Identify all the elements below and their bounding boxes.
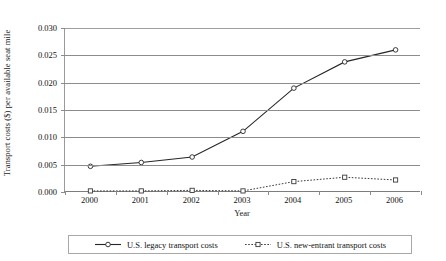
x-tick-mark xyxy=(421,191,422,195)
chart-figure: Transport costs ($) per available seat m… xyxy=(0,0,446,261)
legend-marker-square-icon xyxy=(244,240,272,249)
legend-entry-2[interactable]: U.S. new-entrant transport costs xyxy=(244,240,386,250)
x-tick-label: 2006 xyxy=(386,195,403,205)
x-tick-label: 2005 xyxy=(335,195,352,205)
data-point-marker xyxy=(292,86,297,91)
y-tick-mark xyxy=(61,28,65,29)
data-point-marker xyxy=(190,155,195,160)
gridline xyxy=(65,137,420,138)
plot-area xyxy=(64,28,420,192)
gridline xyxy=(65,165,420,166)
gridline xyxy=(65,28,420,29)
data-point-marker xyxy=(393,48,398,53)
data-point-marker xyxy=(241,189,245,193)
data-point-marker xyxy=(343,175,347,179)
y-tick-mark xyxy=(61,137,65,138)
y-tick-label: 0.005 xyxy=(38,160,57,170)
y-tick-label: 0.010 xyxy=(38,132,57,142)
gridline xyxy=(65,110,420,111)
x-tick-label: 2003 xyxy=(234,195,251,205)
gridline xyxy=(65,83,420,84)
legend-entry-1[interactable]: U.S. legacy transport costs xyxy=(94,240,218,250)
y-tick-label: 0.020 xyxy=(38,78,57,88)
legend-label: U.S. legacy transport costs xyxy=(127,240,218,250)
x-tick-label: 2001 xyxy=(132,195,149,205)
x-tick-label: 2000 xyxy=(81,195,98,205)
data-point-marker xyxy=(292,180,296,184)
data-point-marker xyxy=(88,189,92,193)
x-tick-label: 2004 xyxy=(284,195,301,205)
y-tick-mark xyxy=(61,83,65,84)
chart-legend: U.S. legacy transport costsU.S. new-entr… xyxy=(68,235,412,254)
series-line-1 xyxy=(90,50,395,166)
y-tick-label: 0.025 xyxy=(38,50,57,60)
data-point-marker xyxy=(139,189,143,193)
x-tick-label: 2002 xyxy=(183,195,200,205)
y-axis-label: Transport costs ($) per available seat m… xyxy=(2,3,16,203)
legend-label: U.S. new-entrant transport costs xyxy=(277,240,386,250)
y-tick-label: 0.030 xyxy=(38,23,57,33)
y-tick-label: 0.015 xyxy=(38,105,57,115)
y-tick-mark xyxy=(61,165,65,166)
data-point-marker xyxy=(190,188,194,192)
y-tick-mark xyxy=(61,55,65,56)
data-point-marker xyxy=(241,129,246,134)
legend-marker-circle-icon xyxy=(94,240,122,249)
data-point-marker xyxy=(393,178,397,182)
gridline xyxy=(65,55,420,56)
y-tick-label: 0.000 xyxy=(38,187,57,197)
data-point-marker xyxy=(342,60,347,65)
y-tick-mark xyxy=(61,110,65,111)
x-axis-label: Year xyxy=(64,208,420,218)
x-axis-tick-labels: 2000200120022003200420052006 xyxy=(64,195,420,209)
y-axis-tick-labels: 0.0000.0050.0100.0150.0200.0250.030 xyxy=(16,28,60,192)
